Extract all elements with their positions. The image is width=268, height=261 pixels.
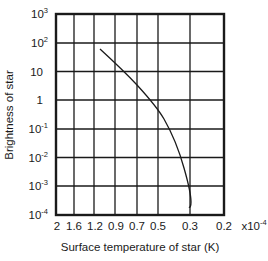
x-tick-1: 1.6 [66,220,82,232]
x-multiplier: x10-4 [241,218,266,232]
y-tick-5: 10-2 [29,150,48,164]
y-tick-3: 1 [37,94,43,106]
x-axis-label: Surface temperature of star (K) [61,241,220,253]
y-axis-label: Brightness of star [3,70,15,160]
y-tick-labels: 103 102 10 1 10-1 10-2 10-3 10-4 [29,6,48,221]
x-tick-labels: 2 1.6 1.2 0.9 0.7 0.5 0.3 0.2 x10-4 [54,218,267,232]
vertical-gridlines [74,14,190,215]
x-tick-4: 0.7 [129,220,145,232]
y-tick-7: 10-4 [29,207,48,221]
y-tick-0: 103 [31,6,48,20]
x-tick-3: 0.9 [108,220,124,232]
y-tick-2: 10 [30,66,43,78]
chart: 103 102 10 1 10-1 10-2 10-3 10-4 2 1.6 1… [0,0,268,261]
x-tick-2: 1.2 [87,220,103,232]
x-tick-7: 0.2 [216,220,232,232]
y-tick-6: 10-3 [29,178,48,192]
y-tick-1: 102 [31,35,48,49]
plot-frame [56,14,224,215]
x-tick-5: 0.5 [150,220,166,232]
x-tick-0: 2 [54,220,60,232]
x-tick-6: 0.3 [182,220,198,232]
horizontal-gridlines [56,43,224,186]
y-tick-4: 10-1 [29,121,48,135]
data-curve [100,49,191,207]
